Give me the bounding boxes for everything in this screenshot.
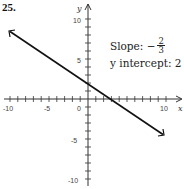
y-tick-label: -10	[68, 177, 78, 184]
coordinate-plane: x y -10 -5 0 10 10 5 -5 -10	[0, 0, 184, 189]
x-tick-label: -10	[3, 105, 13, 112]
intercept-annotation: y intercept: 2	[110, 57, 181, 69]
slope-denominator: 3	[158, 46, 163, 54]
y-tick-label: 10	[73, 17, 81, 24]
x-tick-label: -5	[44, 105, 50, 112]
y-axis-label: y	[76, 4, 82, 13]
y-tick-label: -5	[71, 137, 77, 144]
slope-label: Slope: −	[110, 40, 155, 52]
x-tick-label: 0	[77, 105, 81, 112]
slope-annotation: Slope: − 2 3	[110, 37, 165, 54]
x-axis-label: x	[178, 104, 183, 113]
x-tick-label: 10	[160, 105, 168, 112]
y-tick-label: 5	[77, 57, 81, 64]
slope-fraction: 2 3	[157, 37, 164, 54]
